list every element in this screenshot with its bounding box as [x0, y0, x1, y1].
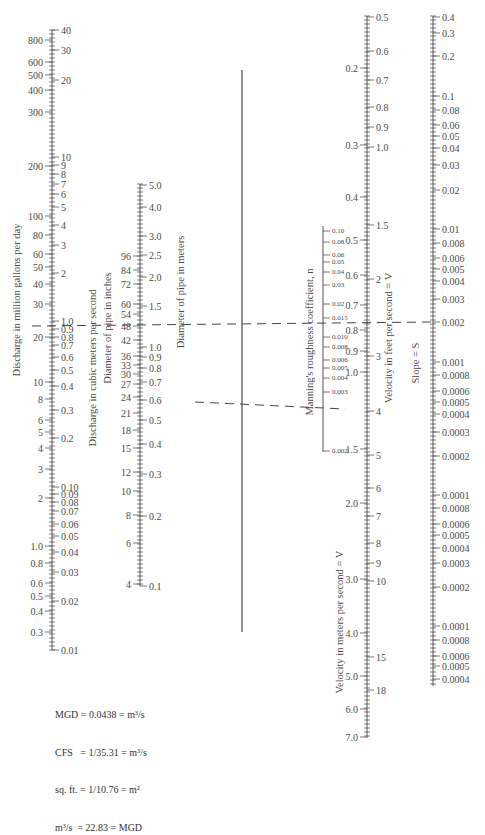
velocity-fps-tick-label: 18 [376, 685, 386, 696]
velocity-mps-tick-label: 0.2 [346, 63, 359, 74]
discharge-cms-tick-label: 0.06 [61, 519, 79, 530]
slope-tick-label: 0.0008 [442, 503, 470, 514]
diameter-inches-tick-label: 18 [121, 425, 131, 436]
discharge-cms-tick-label: 20 [61, 75, 71, 86]
velocity-fps-tick-label: 10 [376, 576, 386, 587]
slope-tick-label: 0.0005 [442, 530, 470, 541]
velocity-fps-tick-label: 0.6 [376, 46, 389, 57]
discharge-mgd-tick-label: 0.4 [31, 606, 44, 617]
velocity-fps-tick-label: 0.5 [376, 12, 389, 23]
discharge-cms-axis-title: Discharge in cubic meters per second [87, 289, 98, 447]
discharge-mgd-tick-label: 60 [33, 249, 43, 260]
manning-n-tick-label: 0.006 [332, 356, 348, 364]
diameter-inches-tick-label: 27 [121, 379, 131, 390]
slope-tick-label: 0.0002 [442, 451, 470, 462]
discharge-cms-tick-label: 0.6 [61, 352, 74, 363]
velocity-mps-tick-label: 7.0 [346, 732, 359, 743]
slope-tick-label: 0.3 [442, 28, 455, 39]
velocity-fps-tick-label: 0.7 [376, 75, 389, 86]
diameter-inches-tick-label: 12 [121, 467, 131, 478]
diameter-meters-axis-title: Diameter of pipe in meters [175, 236, 186, 349]
velocity-mps-axis-title: Velocity in meters per second = V [334, 550, 345, 693]
velocity-fps-tick-label: 15 [376, 652, 386, 663]
diameter-inches-tick-label: 8 [126, 510, 131, 521]
slope-tick-label: 0.004 [442, 276, 465, 287]
diameter-inches-tick-label: 10 [121, 486, 131, 497]
discharge-mgd-tick-label: 800 [28, 35, 43, 46]
diameter-meters-tick-label: 2.0 [149, 272, 162, 283]
velocity-mps-tick-label: 1.5 [346, 444, 359, 455]
discharge-mgd-tick-label: 300 [28, 107, 43, 118]
slope-tick-label: 0.0003 [442, 558, 470, 569]
velocity-fps-tick-label: 2 [376, 274, 381, 285]
discharge-cms-tick-label: 40 [61, 25, 71, 36]
slope-tick-label: 0.1 [442, 91, 455, 102]
discharge-cms-tick-label: 30 [61, 45, 71, 56]
slope-tick-label: 0.02 [442, 185, 460, 196]
slope-tick-label: 0.08 [442, 105, 460, 116]
discharge-mgd-tick-label: 30 [33, 299, 43, 310]
discharge-mgd-tick-label: 600 [28, 57, 43, 68]
discharge-cms-tick-label: 3 [61, 240, 66, 251]
slope-tick-label: 0.01 [442, 224, 460, 235]
diameter-meters-tick-label: 0.2 [149, 511, 162, 522]
slope-tick-label: 0.03 [442, 160, 460, 171]
slope-tick-label: 0.06 [442, 120, 460, 131]
velocity-fps-tick-label: 1.5 [376, 220, 389, 231]
velocity-mps-tick-label: 0.6 [346, 270, 359, 281]
discharge-mgd-tick-label: 1.0 [31, 541, 44, 552]
discharge-mgd-tick-label: 400 [28, 85, 43, 96]
discharge-mgd-tick-label: 4 [38, 443, 43, 454]
discharge-cms-tick-label: 0.03 [61, 567, 79, 578]
discharge-cms-tick-label: 0.2 [61, 433, 74, 444]
slope-tick-label: 0.0005 [442, 397, 470, 408]
slope-tick-label: 0.2 [442, 51, 455, 62]
diameter-inches-tick-label: 24 [121, 392, 131, 403]
discharge-cms-tick-label: 4 [61, 220, 66, 231]
unit-conversions: MGD = 0.0438 = m³/s CFS = 1/35.31 = m³/s… [55, 684, 147, 835]
slope-tick-label: 0.0008 [442, 370, 470, 381]
conversion-mgd: MGD = 0.0438 = m³/s [55, 709, 147, 722]
velocity-fps-tick-label: 7 [376, 511, 381, 522]
discharge-cms-tick-label: 0.02 [61, 596, 79, 607]
velocity-mps-tick-label: 5.0 [346, 671, 359, 682]
slope-tick-label: 0.0001 [442, 621, 470, 632]
discharge-cms-tick-label: 0.07 [61, 506, 79, 517]
velocity-mps-tick-label: 4.0 [346, 628, 359, 639]
discharge-cms-tick-label: 0.3 [61, 405, 74, 416]
slope-tick-label: 0.001 [442, 357, 465, 368]
discharge-cms-tick-label: 0.4 [61, 381, 74, 392]
diameter-inches-tick-label: 96 [121, 251, 131, 262]
diameter-meters-tick-label: 0.4 [149, 439, 162, 450]
discharge-cms-tick-label: 6 [61, 189, 66, 200]
diameter-meters-tick-label: 0.3 [149, 469, 162, 480]
slope-axis-title: Slope = S [410, 342, 421, 383]
slope-tick-label: 0.0004 [442, 409, 470, 420]
discharge-mgd-tick-label: 0.6 [31, 578, 44, 589]
discharge-mgd-tick-label: 0.3 [31, 627, 44, 638]
diameter-meters-tick-label: 5.0 [149, 180, 162, 191]
velocity-fps-tick-label: 1.0 [376, 142, 389, 153]
diameter-meters-tick-label: 0.1 [149, 581, 162, 592]
discharge-cms-tick-label: 2 [61, 268, 66, 279]
discharge-cms-tick-label: 0.05 [61, 531, 79, 542]
diameter-inches-tick-label: 6 [126, 538, 131, 549]
slope-tick-label: 0.0004 [442, 543, 470, 554]
velocity-mps-tick-label: 3.0 [346, 574, 359, 585]
discharge-mgd-tick-label: 2 [38, 493, 43, 504]
slope-tick-label: 0.0005 [442, 661, 470, 672]
discharge-mgd-tick-label: 20 [33, 332, 43, 343]
velocity-fps-tick-label: 0.8 [376, 102, 389, 113]
diameter-meters-tick-label: 0.6 [149, 395, 162, 406]
manning-n-tick-label: 0.08 [332, 238, 345, 246]
manning-n-tick-label: 0.03 [332, 281, 345, 289]
discharge-mgd-tick-label: 6 [38, 415, 43, 426]
diameter-meters-tick-label: 4.0 [149, 202, 162, 213]
velocity-mps-tick-label: 0.3 [346, 140, 359, 151]
manning-n-tick-label: 0.10 [332, 227, 345, 235]
slope-tick-label: 0.05 [442, 131, 460, 142]
velocity-mps-tick-label: 6.0 [346, 704, 359, 715]
slope-tick-label: 0.0001 [442, 490, 470, 501]
diameter-meters-tick-label: 0.5 [149, 415, 162, 426]
